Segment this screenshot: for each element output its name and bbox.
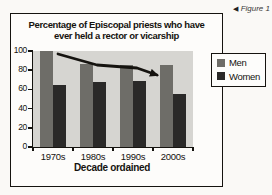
y-tick-label-60: 60 [7,84,27,93]
figure-caption-text: Figure 1 [241,4,270,13]
legend-swatch-men [217,59,225,67]
chart-title: Percentage of Episcopal priests who have… [11,19,222,42]
x-tick-mark [72,147,74,151]
figure-pointer-icon: ◀ [233,5,238,12]
y-tick-mark [28,108,33,110]
legend-label-women: Women [229,72,260,82]
figure-page: ◀ Figure 1 Percentage of Episcopal pries… [0,0,272,195]
x-tick-label-1990s: 1990s [113,151,153,162]
y-tick-mark [28,89,33,91]
legend-item-men: Men [217,58,260,68]
legend: MenWomen [211,53,266,87]
chart-title-line2: ever held a rector or vicarship [54,30,179,41]
x-tick-mark [152,147,154,151]
y-tick-label-20: 20 [7,123,27,132]
x-axis-title: Decade ordained [32,162,192,173]
x-tick-mark [32,147,34,151]
x-tick-label-1980s: 1980s [73,151,113,162]
y-tick-mark [28,69,33,71]
bar-women-1990s [133,81,146,147]
bar-men-1980s [80,64,93,147]
bar-women-1980s [93,82,106,147]
figure-box: Percentage of Episcopal priests who have… [10,13,223,187]
legend-label-men: Men [229,58,247,68]
bar-women-2000s [173,94,186,147]
y-tick-mark [28,50,33,52]
y-tick-label-0: 0 [7,142,27,151]
y-tick-label-80: 80 [7,65,27,74]
bar-men-1990s [120,65,133,147]
x-tick-label-2000s: 2000s [153,151,193,162]
bar-women-1970s [53,85,66,147]
figure-caption: ◀ Figure 1 [233,4,270,13]
legend-item-women: Women [217,72,260,82]
legend-swatch-women [217,72,225,80]
chart-title-line1: Percentage of Episcopal priests who have [28,19,204,30]
x-tick-mark [112,147,114,151]
y-tick-label-40: 40 [7,104,27,113]
x-tick-label-1970s: 1970s [33,151,73,162]
x-tick-mark [192,147,194,151]
y-tick-mark [28,127,33,129]
y-tick-label-100: 100 [7,46,27,55]
plot-area: 1970s1980s1990s2000s020406080100 [32,51,193,148]
bar-men-2000s [160,65,173,147]
bar-men-1970s [40,51,53,147]
